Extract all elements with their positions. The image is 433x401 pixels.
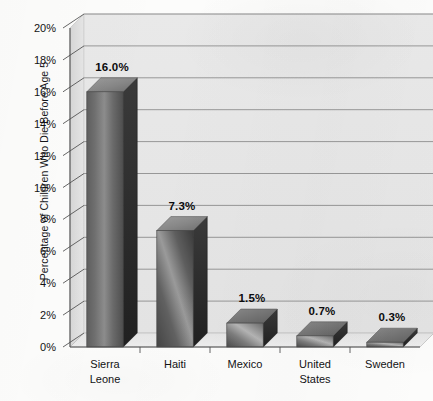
bar-value-label: 1.5% bbox=[238, 292, 265, 304]
bar-value-label: 16.0% bbox=[95, 61, 129, 73]
bar[interactable] bbox=[157, 217, 207, 347]
bar-value-label: 7.3% bbox=[168, 200, 195, 212]
bar-side-face bbox=[193, 217, 207, 347]
bar-side-face bbox=[123, 78, 137, 347]
bar-value-label: 0.3% bbox=[378, 311, 405, 323]
x-axis-category-label: Haiti bbox=[164, 357, 186, 372]
bar[interactable] bbox=[87, 78, 137, 347]
bar-front-face bbox=[297, 336, 333, 347]
bar-front-face bbox=[367, 342, 403, 347]
x-axis-category-label: Sierra Leone bbox=[90, 357, 121, 386]
bar-front-face bbox=[87, 92, 123, 347]
bar-value-label: 0.7% bbox=[308, 305, 335, 317]
bar-front-face bbox=[157, 231, 193, 347]
plot-left-wall bbox=[70, 14, 84, 347]
bar-front-face bbox=[227, 323, 263, 347]
x-axis-ticks bbox=[140, 347, 350, 353]
x-axis-category-label: United States bbox=[299, 357, 331, 386]
chart-page: Percentage of Children Who Die Before Ag… bbox=[0, 0, 433, 401]
bar-chart-plot bbox=[0, 0, 433, 401]
x-axis-category-label: Sweden bbox=[365, 357, 405, 372]
x-axis-category-label: Mexico bbox=[228, 357, 263, 372]
